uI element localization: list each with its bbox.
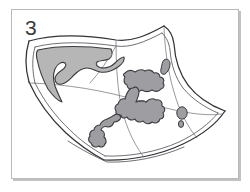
figure-panel: 3 <box>11 9 239 179</box>
folded-map-illustration <box>12 10 238 178</box>
landmass-upper-centre <box>124 70 165 92</box>
island-small-upper <box>177 107 187 119</box>
island-small-lower <box>178 121 183 128</box>
